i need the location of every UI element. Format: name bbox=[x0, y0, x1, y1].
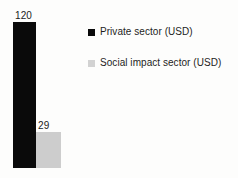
bar-value-label-private-sector: 120 bbox=[15, 10, 32, 21]
legend-item-private-sector: Private sector (USD) bbox=[88, 26, 238, 38]
chart-legend: Private sector (USD) Social impact secto… bbox=[88, 26, 238, 88]
legend-swatch-icon-social-impact-sector bbox=[88, 60, 95, 67]
bar-private-sector bbox=[13, 22, 36, 168]
plot-area: 120 29 bbox=[0, 0, 100, 178]
legend-swatch-icon-private-sector bbox=[88, 29, 95, 36]
legend-label-private-sector: Private sector (USD) bbox=[100, 26, 193, 38]
bar-chart: 120 29 Private sector (USD) Social impac… bbox=[0, 0, 238, 178]
bar-value-label-social-impact-sector: 29 bbox=[38, 120, 49, 131]
legend-label-social-impact-sector: Social impact sector (USD) bbox=[100, 57, 221, 69]
legend-item-social-impact-sector: Social impact sector (USD) bbox=[88, 57, 238, 69]
bar-social-impact-sector bbox=[36, 132, 61, 168]
